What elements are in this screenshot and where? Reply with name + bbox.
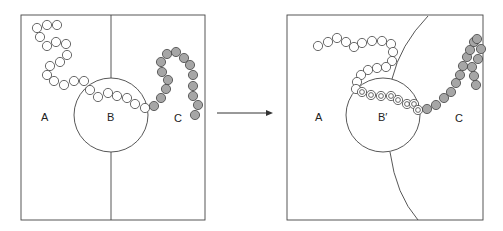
ringed-bead xyxy=(366,90,375,99)
left-label-a: A xyxy=(41,111,49,123)
white-bead xyxy=(381,62,390,71)
right-label-a: A xyxy=(315,111,323,123)
gray-bead xyxy=(471,80,480,89)
white-bead xyxy=(112,91,121,100)
white-bead xyxy=(61,39,70,48)
right-label-c: C xyxy=(455,112,463,124)
white-bead xyxy=(140,103,149,112)
white-bead xyxy=(35,32,44,41)
ringed-bead xyxy=(357,87,366,96)
gray-bead xyxy=(162,49,171,58)
left-white-bead-chain xyxy=(32,20,149,112)
ringed-bead xyxy=(393,95,402,104)
gray-bead xyxy=(171,47,180,56)
gray-bead xyxy=(473,54,482,63)
gray-bead xyxy=(422,104,431,113)
gray-bead xyxy=(458,61,467,70)
transition-arrow xyxy=(217,110,273,116)
white-bead xyxy=(49,76,58,85)
white-bead xyxy=(45,61,54,70)
gray-bead xyxy=(476,44,485,53)
white-bead xyxy=(341,37,350,46)
white-bead xyxy=(313,41,322,50)
gray-bead xyxy=(431,100,440,109)
gray-bead xyxy=(188,70,197,79)
white-bead xyxy=(103,88,112,97)
left-label-c: C xyxy=(174,112,182,124)
ringed-bead xyxy=(413,105,422,114)
white-bead xyxy=(388,47,397,56)
white-bead xyxy=(52,20,61,29)
gray-bead xyxy=(188,91,197,100)
white-bead xyxy=(377,36,386,45)
right-membrane-curve-bottom xyxy=(390,152,418,220)
white-bead xyxy=(85,85,94,94)
gray-bead xyxy=(472,34,481,43)
white-bead xyxy=(32,23,41,32)
gray-bead xyxy=(185,60,194,69)
white-bead xyxy=(55,57,64,66)
gray-bead xyxy=(467,62,476,71)
right-panel: A B′ C xyxy=(287,15,486,220)
white-bead xyxy=(51,37,60,46)
white-bead xyxy=(62,50,71,59)
white-bead xyxy=(69,76,78,85)
white-bead xyxy=(332,33,341,42)
white-bead xyxy=(323,37,332,46)
gray-bead xyxy=(469,71,478,80)
white-bead xyxy=(59,80,68,89)
right-white-bead-chain xyxy=(313,33,397,93)
white-bead xyxy=(130,99,139,108)
gray-bead xyxy=(163,75,172,84)
gray-bead xyxy=(156,57,165,66)
white-bead xyxy=(357,38,366,47)
left-panel: A B C xyxy=(21,15,205,220)
gray-bead xyxy=(156,93,165,102)
right-ringed-bead-chain xyxy=(357,87,422,114)
gray-bead xyxy=(149,101,158,110)
white-bead xyxy=(79,76,88,85)
right-label-b-prime: B′ xyxy=(378,111,387,123)
white-bead xyxy=(42,20,51,29)
gray-bead xyxy=(446,87,455,96)
white-bead xyxy=(93,92,102,101)
left-gray-bead-chain xyxy=(149,47,202,119)
white-bead xyxy=(372,63,381,72)
left-label-b: B xyxy=(107,111,114,123)
ringed-bead xyxy=(376,91,385,100)
arrow-head-icon xyxy=(266,110,273,116)
gray-bead xyxy=(157,67,166,76)
gray-bead xyxy=(188,81,197,90)
gray-bead xyxy=(161,84,170,93)
right-gray-bead-chain xyxy=(422,34,485,113)
gray-bead xyxy=(190,110,199,119)
white-bead xyxy=(367,36,376,45)
gray-bead xyxy=(193,100,202,109)
right-membrane-curve-top xyxy=(392,16,428,79)
white-bead xyxy=(42,41,51,50)
white-bead xyxy=(122,93,131,102)
diagram-canvas: A B C A B′ C xyxy=(0,0,503,231)
gray-bead xyxy=(455,70,464,79)
